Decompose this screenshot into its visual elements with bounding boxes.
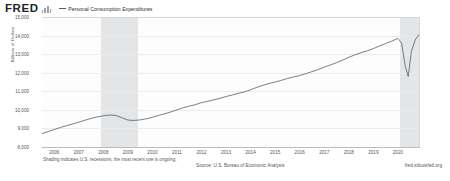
chart-header: FRED Personal Consumption Expenditures [0,0,450,17]
x-tick-label: 2020 [383,150,413,155]
y-axis-title: Billions of Dollars [10,15,15,75]
y-tick-label: 15,000 [0,15,29,20]
y-tick-label: 8,000 [0,145,29,150]
y-tick-label: 13,000 [0,52,29,57]
recession-note: Shading indicates U.S. recessions; the m… [43,157,193,163]
y-tick-label: 9,000 [0,126,29,131]
legend-label: Personal Consumption Expenditures [68,6,152,12]
y-tick-label: 12,000 [0,70,29,75]
series-line-pce [42,17,420,147]
source-label: Source: U.S. Bureau of Economic Analysis [196,163,285,168]
legend-swatch-icon [59,8,66,9]
y-tick-label: 10,000 [0,107,29,112]
site-url-label: fred.stlouisfed.org [405,163,442,168]
series-path [42,35,419,134]
x-axis-line [42,147,420,148]
legend: Personal Consumption Expenditures [59,6,153,12]
bar-chart-icon [42,5,52,13]
fred-logo: FRED [5,3,52,15]
y-tick-label: 11,000 [0,89,29,94]
fred-logo-text: FRED [5,2,39,14]
y-tick-label: 14,000 [0,33,29,38]
fred-chart-figure: FRED Personal Consumption Expenditures B… [0,0,450,181]
plot-area [42,17,420,147]
